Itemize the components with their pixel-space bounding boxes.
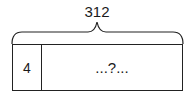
known-part: 4 (13, 45, 42, 90)
bar-model: 4 ...?... (12, 44, 183, 91)
unknown-part: ...?... (42, 45, 182, 90)
